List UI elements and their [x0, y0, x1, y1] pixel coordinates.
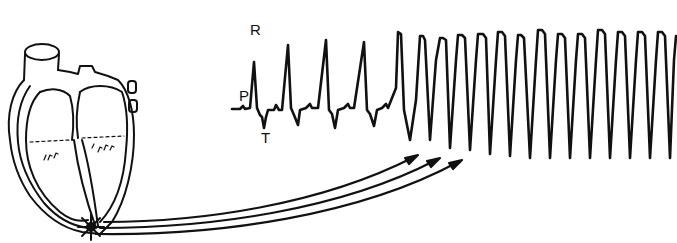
p-wave-label: P — [239, 88, 249, 103]
heart-illustration — [0, 0, 677, 243]
pulmonary-veins — [128, 81, 137, 112]
arrow-3 — [96, 162, 458, 234]
heart-chambers — [26, 86, 127, 228]
arrowhead-2-icon — [427, 158, 440, 167]
arrowhead-3-icon — [449, 160, 462, 169]
r-wave-label: R — [250, 22, 261, 37]
propagation-arrows — [96, 155, 462, 234]
t-wave-label: T — [261, 130, 270, 145]
arrowhead-1-icon — [405, 155, 418, 164]
ecg-trace — [232, 30, 676, 158]
heart-outer-wall — [9, 66, 134, 234]
diagram: R P T — [0, 0, 677, 243]
aorta — [24, 44, 59, 80]
